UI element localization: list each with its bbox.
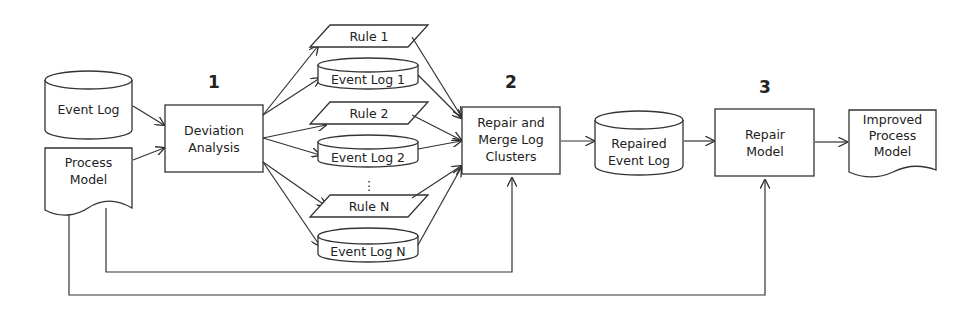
arrows-to-repair-merge bbox=[412, 37, 461, 245]
repair-merge-box: Repair and Merge Log Clusters bbox=[462, 107, 560, 174]
event-log-n-label: Event Log N bbox=[330, 244, 405, 259]
process-model-input: Process Model bbox=[45, 148, 132, 215]
improved-model-label-3: Model bbox=[874, 144, 912, 159]
improved-model-label-1: Improved bbox=[863, 112, 922, 127]
event-log-2-label: Event Log 2 bbox=[331, 150, 405, 165]
event-log-n: Event Log N bbox=[318, 228, 418, 262]
rule-n-label: Rule N bbox=[349, 199, 390, 214]
deviation-analysis-box: Deviation Analysis bbox=[165, 105, 263, 172]
repaired-event-log-label-1: Repaired bbox=[611, 136, 666, 151]
deviation-analysis-label-2: Analysis bbox=[188, 140, 240, 155]
process-model-label-2: Model bbox=[70, 172, 108, 187]
deviation-analysis-label-1: Deviation bbox=[184, 123, 244, 138]
process-model-label-1: Process bbox=[65, 155, 112, 170]
step-number-3: 3 bbox=[759, 77, 771, 97]
rule-2: Rule 2 bbox=[310, 102, 428, 124]
rule-1-label: Rule 1 bbox=[349, 29, 388, 44]
event-log-label: Event Log bbox=[57, 102, 119, 117]
event-log-input: Event Log bbox=[45, 71, 132, 139]
step-number-2: 2 bbox=[505, 72, 517, 92]
repair-model-label-2: Model bbox=[746, 144, 784, 159]
feedback-line-to-repair-merge bbox=[106, 178, 512, 272]
repair-model-box: Repair Model bbox=[715, 109, 814, 176]
repair-model-label-1: Repair bbox=[745, 127, 786, 142]
repaired-event-log-label-2: Event Log bbox=[608, 153, 670, 168]
process-repair-diagram: Event Log Process Model 1 Deviation Anal… bbox=[0, 0, 976, 314]
event-log-2: Event Log 2 bbox=[318, 135, 418, 167]
repair-merge-label-3: Clusters bbox=[486, 149, 537, 164]
ellipsis: ⋮ bbox=[363, 178, 376, 193]
event-log-1: Event Log 1 bbox=[318, 58, 418, 89]
rule-1: Rule 1 bbox=[310, 25, 428, 47]
repair-merge-label-2: Merge Log bbox=[478, 132, 543, 147]
repaired-event-log: Repaired Event Log bbox=[595, 111, 683, 175]
step-number-1: 1 bbox=[208, 72, 220, 92]
arrow-model-to-deviation bbox=[133, 148, 164, 160]
improved-model-label-2: Process bbox=[869, 128, 916, 143]
arrow-eventlog-to-deviation bbox=[133, 106, 164, 125]
repair-merge-label-1: Repair and bbox=[477, 115, 545, 130]
rule-n: Rule N bbox=[310, 195, 428, 217]
event-log-1-label: Event Log 1 bbox=[331, 72, 405, 87]
rule-2-label: Rule 2 bbox=[349, 106, 388, 121]
improved-process-model: Improved Process Model bbox=[849, 110, 936, 177]
